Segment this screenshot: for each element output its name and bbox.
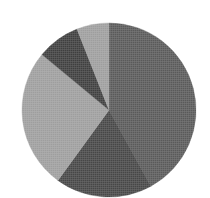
pie-slice-group: [22, 23, 196, 197]
pie-chart-svg: [0, 0, 210, 198]
pie-chart-figure: [0, 0, 210, 198]
